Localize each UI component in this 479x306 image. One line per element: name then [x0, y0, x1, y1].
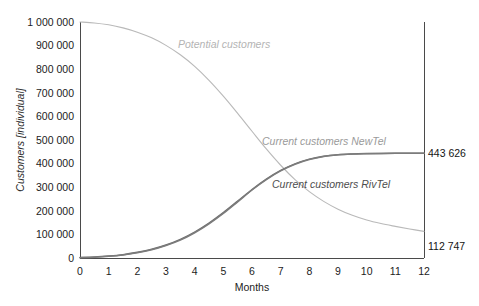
y-tick-label: 300 000	[36, 181, 74, 193]
x-tick-label: 3	[163, 265, 169, 277]
x-tick-label: 9	[335, 265, 341, 277]
x-tick-label: 1	[106, 265, 112, 277]
x-tick-label: 4	[192, 265, 198, 277]
x-tick-labels: 0 1 2 3 4 5 6 7 8 9 10 11 12	[77, 265, 430, 277]
series-annotations: Potential customers Current customers Ne…	[178, 38, 391, 190]
end-value-newtel: 443 626	[428, 147, 466, 159]
y-tick-label: 800 000	[36, 63, 74, 75]
y-tick-label: 600 000	[36, 110, 74, 122]
x-tick-label: 6	[249, 265, 255, 277]
x-tick-label: 10	[361, 265, 373, 277]
curve-rivtel	[80, 153, 424, 257]
x-tick-label: 11	[390, 265, 401, 277]
x-tick-label: 7	[278, 265, 284, 277]
y-tick-label: 100 000	[36, 228, 74, 240]
y-tick-label: 500 000	[36, 134, 74, 146]
curve-newtel	[80, 153, 424, 257]
x-axis-title: Months	[235, 281, 269, 293]
y-tick-label: 0	[68, 252, 74, 264]
y-tick-label: 900 000	[36, 39, 74, 51]
end-value-labels: 443 626 112 747	[428, 147, 466, 252]
end-value-potential: 112 747	[428, 240, 465, 252]
line-chart: 1 000 000 900 000 800 000 700 000 600 00…	[0, 0, 479, 306]
chart-container: 1 000 000 900 000 800 000 700 000 600 00…	[0, 0, 479, 306]
x-tick-label: 2	[134, 265, 140, 277]
y-tick-label: 1 000 000	[27, 16, 74, 28]
annotation-potential-customers: Potential customers	[178, 38, 271, 50]
y-tick-label: 200 000	[36, 205, 74, 217]
curve-potential-customers	[80, 22, 424, 231]
annotation-rivtel: Current customers RivTel	[272, 178, 391, 190]
y-tick-labels: 1 000 000 900 000 800 000 700 000 600 00…	[27, 16, 74, 264]
x-tick-label: 5	[220, 265, 226, 277]
annotation-newtel: Current customers NewTel	[262, 135, 387, 147]
y-tick-label: 700 000	[36, 87, 74, 99]
x-tick-label: 8	[306, 265, 312, 277]
y-axis-title: Customers [individual]	[14, 87, 26, 191]
y-tick-label: 400 000	[36, 157, 74, 169]
x-tick-label: 12	[418, 265, 430, 277]
x-tick-label: 0	[77, 265, 83, 277]
